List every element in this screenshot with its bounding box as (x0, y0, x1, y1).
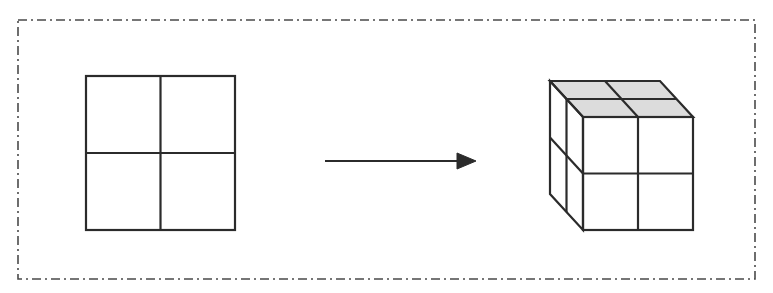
cube-figure (550, 81, 693, 230)
transformation-arrow (325, 153, 476, 169)
figure-canvas (0, 0, 773, 293)
arrow-head-icon (457, 153, 476, 169)
square-grid-figure (86, 76, 235, 230)
figure-root: Two-dimensional 2x2 grid transformed int… (0, 0, 773, 293)
